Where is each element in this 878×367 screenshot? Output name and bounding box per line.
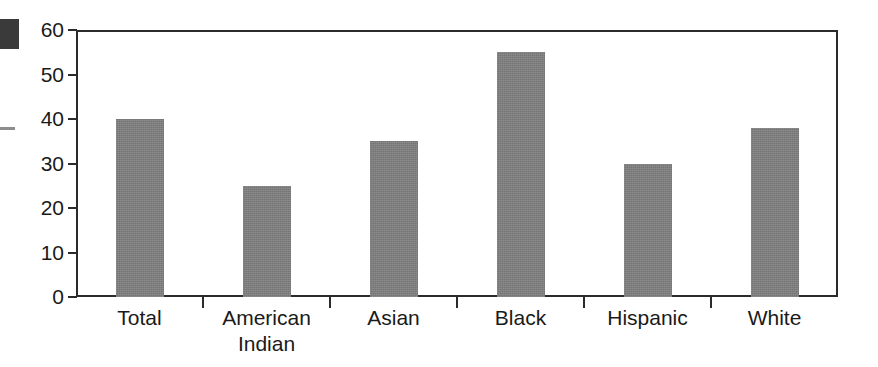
y-tick-label-text: 60 — [41, 19, 64, 40]
y-tick-label-text: 10 — [41, 242, 64, 263]
bar — [243, 186, 291, 297]
x-axis-labels: TotalAmerican IndianAsianBlackHispanicWh… — [76, 305, 838, 367]
x-axis-category-label: White — [700, 305, 850, 331]
y-tick-label-text: 20 — [41, 197, 64, 218]
bar — [751, 128, 799, 297]
bar — [116, 119, 164, 297]
bar-series — [76, 30, 838, 297]
y-tick-label-text: 0 — [52, 286, 64, 307]
y-tick-label-text: 30 — [41, 153, 64, 174]
bar-chart: 0102030405060 TotalAmerican IndianAsianB… — [0, 0, 878, 367]
bar — [497, 52, 545, 297]
bar — [370, 141, 418, 297]
y-tick-label-text: 40 — [41, 108, 64, 129]
bar — [624, 164, 672, 298]
y-tick-label-text: 50 — [41, 64, 64, 85]
chart-screenshot: 0102030405060 TotalAmerican IndianAsianB… — [0, 0, 878, 367]
